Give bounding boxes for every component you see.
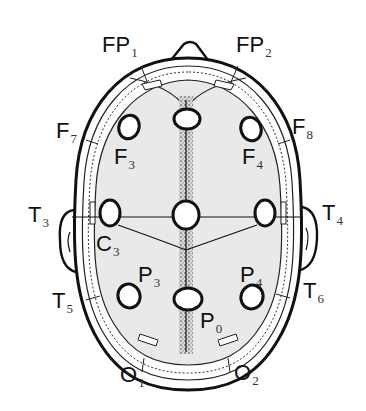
label-f8: F8 [292, 116, 313, 141]
label-p4: P4 [240, 264, 262, 289]
electrode-c4 [255, 200, 275, 226]
electrode-p0 [174, 288, 202, 310]
label-t3: T3 [28, 204, 49, 229]
label-t5: T5 [52, 290, 73, 315]
label-f3: F3 [114, 146, 135, 171]
label-c3: C3 [96, 233, 119, 258]
label-p0: P0 [200, 310, 222, 335]
eeg-head-diagram: FP1 FP2 F7 F8 F3 F4 T3 T4 C3 P3 P4 T5 T6… [0, 0, 366, 411]
label-o2: O2 [234, 362, 259, 387]
label-f4: F4 [242, 146, 263, 171]
label-t4: T4 [322, 202, 343, 227]
head-illustration [0, 0, 366, 411]
electrode-cz [173, 201, 199, 229]
label-p3: P3 [138, 264, 160, 289]
label-fp2: FP2 [236, 34, 272, 59]
label-t6: T6 [303, 280, 324, 305]
label-fp1: FP1 [102, 34, 138, 59]
label-o1: O1 [120, 364, 145, 389]
electrode-c3 [100, 200, 120, 226]
label-f7: F7 [56, 120, 77, 145]
electrode-fz [174, 109, 200, 129]
